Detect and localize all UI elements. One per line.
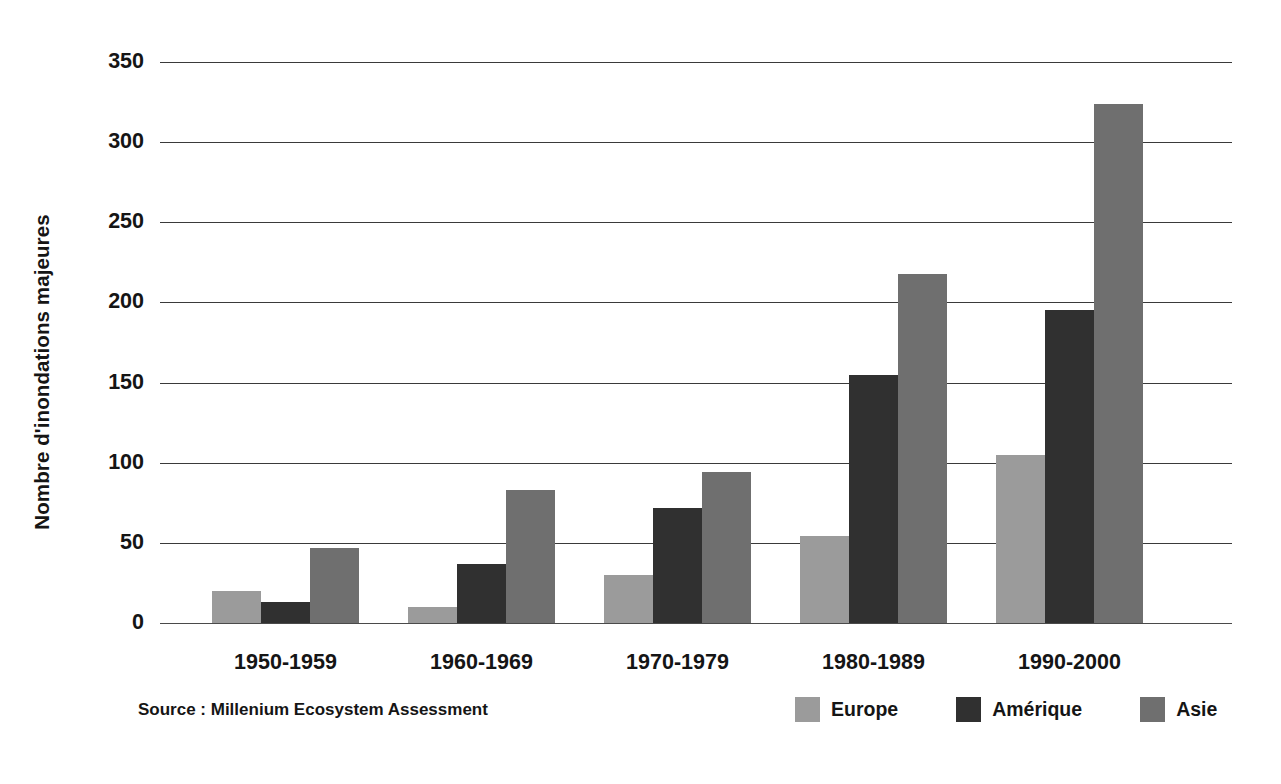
bar-amerique-1980-1989: [849, 375, 898, 623]
bar-asie-1970-1979: [702, 472, 751, 623]
bar-europe-1950-1959: [212, 591, 261, 623]
legend-swatch-asie-icon: [1140, 697, 1165, 722]
bar-asie-1990-2000: [1094, 104, 1143, 623]
bar-europe-1980-1989: [800, 536, 849, 623]
x-axis-label-1980-1989: 1980-1989: [822, 650, 925, 675]
bar-amerique-1990-2000: [1045, 310, 1094, 623]
y-tick-label-150: 150: [32, 372, 144, 394]
y-tick-label-350: 350: [32, 51, 144, 73]
gridline-250: [160, 222, 1232, 223]
y-tick-label-0: 0: [32, 612, 144, 634]
legend-swatch-amerique-icon: [956, 697, 981, 722]
gridline-200: [160, 302, 1232, 303]
bar-asie-1980-1989: [898, 274, 947, 623]
bar-asie-1960-1969: [506, 490, 555, 623]
legend-swatch-europe-icon: [795, 697, 820, 722]
legend-label-europe: Europe: [831, 698, 898, 721]
gridline-350: [160, 62, 1232, 63]
bar-amerique-1950-1959: [261, 602, 310, 623]
x-axis-label-1960-1969: 1960-1969: [430, 650, 533, 675]
y-tick-label-200: 200: [32, 292, 144, 314]
y-tick-label-250: 250: [32, 212, 144, 234]
legend-item-asie[interactable]: Asie: [1140, 697, 1217, 722]
bar-amerique-1960-1969: [457, 564, 506, 623]
source-note: Source : Millenium Ecosystem Assessment: [138, 700, 488, 720]
bar-europe-1960-1969: [408, 607, 457, 623]
legend-label-amerique: Amérique: [992, 698, 1082, 721]
bar-europe-1970-1979: [604, 575, 653, 623]
legend-item-europe[interactable]: Europe: [795, 697, 898, 722]
gridline-300: [160, 142, 1232, 143]
legend-item-amerique[interactable]: Amérique: [956, 697, 1082, 722]
x-axis-label-1970-1979: 1970-1979: [626, 650, 729, 675]
bar-amerique-1970-1979: [653, 508, 702, 623]
bar-asie-1950-1959: [310, 548, 359, 623]
chart-legend: EuropeAmériqueAsie: [795, 697, 1217, 722]
plot-area: 050100150200250300350: [160, 62, 1232, 623]
x-axis-label-1990-2000: 1990-2000: [1018, 650, 1121, 675]
flood-count-bar-chart: Nombre d'inondations majeures 0501001502…: [0, 0, 1281, 784]
y-tick-label-300: 300: [32, 131, 144, 153]
gridline-0: [160, 623, 1232, 624]
y-tick-label-50: 50: [32, 532, 144, 554]
y-tick-label-100: 100: [32, 452, 144, 474]
x-axis-label-1950-1959: 1950-1959: [234, 650, 337, 675]
bar-europe-1990-2000: [996, 455, 1045, 623]
legend-label-asie: Asie: [1176, 698, 1217, 721]
